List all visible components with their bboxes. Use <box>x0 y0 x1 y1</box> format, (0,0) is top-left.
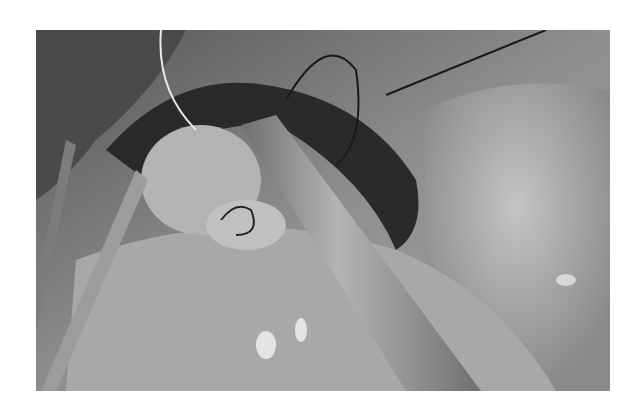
surgical-photo <box>36 30 610 391</box>
surgical-scene <box>36 30 610 391</box>
